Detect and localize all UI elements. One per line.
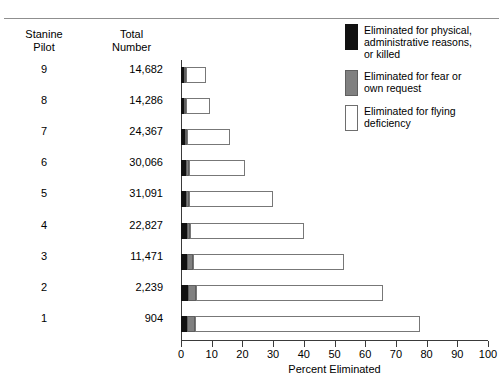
legend-label-line1: Eliminated for flying: [364, 105, 456, 117]
x-axis-tick-label: 90: [442, 348, 472, 360]
legend-label: Eliminated for physical, administrative …: [364, 24, 472, 61]
x-axis-label: Percent Eliminated: [181, 363, 488, 375]
legend-label: Eliminated for flying deficiency: [364, 105, 456, 131]
stacked-bar: [181, 191, 273, 207]
x-axis-tick-label: 70: [381, 348, 411, 360]
x-axis-tick-label: 80: [412, 348, 442, 360]
x-axis-tick-label: 50: [320, 348, 350, 360]
gray-swatch-icon: [345, 70, 358, 96]
stacked-bar: [181, 160, 245, 176]
stacked-bar: [181, 316, 420, 332]
legend-item: Eliminated for flying deficiency: [345, 105, 503, 131]
bar-segment: [190, 223, 304, 239]
x-axis-tick: [304, 341, 305, 347]
bar-segment: [186, 67, 206, 83]
legend-label-line1: Eliminated for fear or: [364, 70, 461, 82]
legend-item: Eliminated for physical, administrative …: [345, 24, 503, 61]
x-axis-tick-label: 100: [473, 348, 503, 360]
stacked-bar: [181, 254, 344, 270]
bar-segment: [188, 285, 197, 301]
figure: Stanine Pilot Total Number 914,682814,28…: [0, 0, 503, 388]
x-axis-tick: [212, 341, 213, 347]
x-axis-tick-label: 30: [258, 348, 288, 360]
legend: Eliminated for physical, administrative …: [345, 24, 503, 140]
x-axis-tick: [457, 341, 458, 347]
stacked-bar: [181, 223, 304, 239]
x-axis-tick: [273, 341, 274, 347]
x-axis-tick: [181, 341, 182, 347]
x-axis-tick: [488, 341, 489, 347]
x-axis-tick: [427, 341, 428, 347]
legend-label-line3: or killed: [364, 48, 472, 60]
stacked-bar: [181, 129, 230, 145]
bar-segment: [196, 285, 383, 301]
bar-segment: [186, 98, 210, 114]
bar-segment: [187, 129, 231, 145]
bar-segment: [187, 316, 195, 332]
x-axis-tick: [242, 341, 243, 347]
legend-label-line2: deficiency: [364, 117, 456, 129]
x-axis-tick-label: 40: [289, 348, 319, 360]
x-axis-tick: [365, 341, 366, 347]
x-axis-tick-label: 20: [227, 348, 257, 360]
stacked-bar: [181, 67, 206, 83]
white-swatch-icon: [345, 105, 358, 131]
bar-segment: [193, 254, 343, 270]
x-axis-tick-label: 0: [166, 348, 196, 360]
bar-segment: [195, 316, 421, 332]
bar-segment: [189, 191, 273, 207]
x-axis-tick: [335, 341, 336, 347]
x-axis-tick: [396, 341, 397, 347]
legend-label-line2: own request: [364, 82, 461, 94]
stacked-bar: [181, 285, 383, 301]
black-swatch-icon: [345, 24, 358, 50]
legend-item: Eliminated for fear or own request: [345, 70, 503, 96]
legend-label-line2: administrative reasons,: [364, 36, 472, 48]
stacked-bar: [181, 98, 210, 114]
x-axis-tick-label: 10: [197, 348, 227, 360]
legend-label-line1: Eliminated for physical,: [364, 24, 472, 36]
legend-label: Eliminated for fear or own request: [364, 70, 461, 96]
bar-segment: [181, 285, 188, 301]
bar-segment: [189, 160, 246, 176]
x-axis-tick-label: 60: [350, 348, 380, 360]
